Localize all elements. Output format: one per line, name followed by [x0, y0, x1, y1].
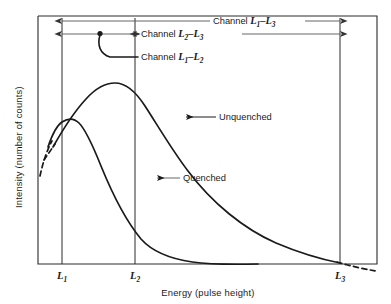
x-tick-label-L2: L2 [129, 270, 140, 284]
channel-l1-l2-label: Channel L1–L2 [141, 51, 204, 64]
curve-unquenched-dashed-tail [337, 262, 376, 271]
figure-container: Channel L1–L3 Channel L2–L3 Channel L1–L… [0, 0, 391, 304]
curve-quenched-solid [48, 119, 258, 264]
curve-quenched [40, 119, 258, 264]
channel-l1-l3-label: Channel L1–L3 [213, 15, 276, 28]
channel-l1-l2-leader-line [99, 35, 138, 57]
unquenched-label: Unquenched [219, 112, 272, 122]
annotation-channel-l2-l3: Channel L2–L3 [137, 28, 340, 42]
y-axis-title: Intensity (number of counts) [13, 86, 24, 208]
x-tick-label-L3: L3 [334, 270, 345, 284]
annotation-channel-l1-l3: Channel L1–L3 [62, 15, 340, 28]
x-tick-label-L1: L1 [56, 270, 67, 284]
x-tick-labels: L1 L2 L3 [56, 270, 345, 284]
x-axis-title: Energy (pulse height) [161, 287, 254, 298]
annotation-quenched: Quenched [157, 173, 226, 183]
annotation-unquenched: Unquenched [186, 112, 272, 122]
annotation-channel-l1-l2-span [62, 31, 133, 36]
quenched-label: Quenched [183, 173, 226, 183]
chart-svg: Channel L1–L3 Channel L2–L3 Channel L1–L… [0, 0, 391, 304]
